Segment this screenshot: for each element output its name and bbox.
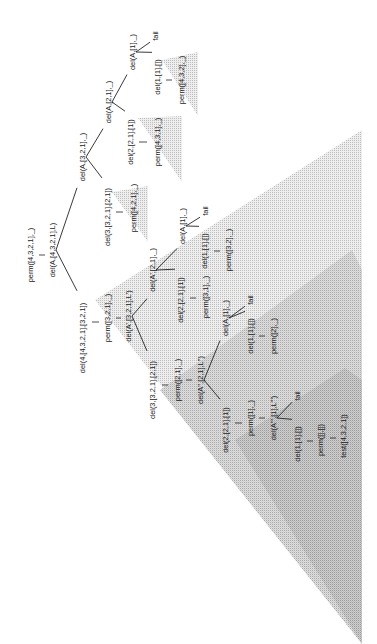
tree-node: del(A',[2,1],_): [148, 248, 157, 292]
tree-edge: [112, 75, 127, 102]
tree-node: perm([3,2],_): [224, 229, 233, 271]
tree-node: perm([3,1],_): [201, 276, 210, 318]
search-tree-diagram: perm([4,3,2,1],_)del(A,[4,3,2,1],L)del(A…: [0, 0, 377, 644]
tree-node: del(2,[2,1],[1]): [176, 277, 185, 323]
tree-edge: [136, 42, 150, 52]
fail-leaf: fail: [293, 391, 302, 401]
tree-canvas: perm([4,3,2,1],_)del(A,[4,3,2,1],L)del(A…: [0, 0, 377, 644]
tree-node: del(1,[1],[]): [246, 318, 255, 353]
tree-node: del(A,[1],_): [178, 208, 187, 244]
tree-node: perm([1],_): [246, 400, 255, 436]
tree-node: del(A',[3,2,1],L'): [124, 290, 133, 341]
tree-edge: [56, 188, 77, 250]
subtree-triangles: [95, 52, 362, 644]
tree-node: del(1,[1],[]): [293, 426, 302, 461]
tree-edge: [186, 217, 200, 226]
tree-node: perm([4,3,2],_): [177, 56, 186, 104]
tree-node: del(A,[2,1],_): [104, 81, 113, 123]
tree-node: del(A,[1],_): [221, 300, 230, 336]
tree-node: perm([2,1],_): [173, 359, 182, 401]
tree-node: del(A,[3,2,1],_): [78, 133, 87, 181]
tree-node: test([4,3,2,1]): [339, 414, 348, 458]
tree-edge: [112, 102, 125, 111]
tree-node: perm([2],_): [269, 318, 278, 354]
tree-node: del(1,[1],[]): [200, 233, 209, 268]
fail-leaf: fail: [151, 31, 160, 41]
tree-node: del(A,[4,3,2,1],L): [48, 223, 57, 278]
tree-node: del(1,[1],[]): [153, 59, 162, 94]
tree-node: perm([4,3,2,1],_): [26, 228, 35, 283]
tree-node: perm([4,3,1],_): [153, 118, 162, 166]
tree-node: del(3,[3,2,1],[2,1]): [103, 188, 112, 246]
tree-node: perm([3,2,1],_): [103, 294, 112, 342]
tree-node: perm([4,2,1],_): [129, 184, 138, 232]
fail-leaf: fail: [201, 206, 210, 216]
tree-edge: [86, 157, 102, 178]
tree-node: del(3,[3,2,1],[2,1]): [148, 361, 157, 419]
tree-node: del(2,[2,1],[1]): [126, 119, 135, 165]
tree-node: del(A''',[1],L'''): [269, 396, 278, 441]
tree-node: del(2,[2,1],[1]): [221, 407, 230, 453]
tree-edge: [86, 129, 103, 157]
tree-node: del(4,[4,3,2,1],[3,2,1]): [78, 303, 87, 373]
tree-node: perm([],[]): [316, 424, 325, 456]
tree-node: del(A'',[2,1],L''): [196, 356, 205, 404]
tree-node: del(A,[1],_): [128, 34, 137, 70]
fail-leaf: fail: [246, 295, 255, 305]
tree-edge: [56, 250, 77, 291]
